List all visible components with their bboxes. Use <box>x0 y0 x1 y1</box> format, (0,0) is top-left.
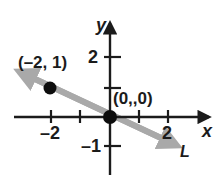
line-label-L: L <box>180 144 190 160</box>
point-label-origin: (0,,0) <box>113 90 153 107</box>
point-label-neg2-1: (–2, 1) <box>18 54 67 71</box>
graph-canvas <box>0 0 224 182</box>
coordinate-plane-figure: –2 2 2 –1 y x (–2, 1) (0,,0) L <box>0 0 224 182</box>
x-tick-label-pos2: 2 <box>162 124 172 142</box>
data-point-neg2-1 <box>44 82 57 95</box>
y-axis-label: y <box>96 16 106 34</box>
data-point-origin <box>103 110 117 124</box>
x-axis-label: x <box>202 122 212 140</box>
x-tick-label-neg2: –2 <box>40 124 60 142</box>
y-tick-label-neg1: –1 <box>81 137 101 155</box>
y-tick-label-pos2: 2 <box>88 48 98 66</box>
